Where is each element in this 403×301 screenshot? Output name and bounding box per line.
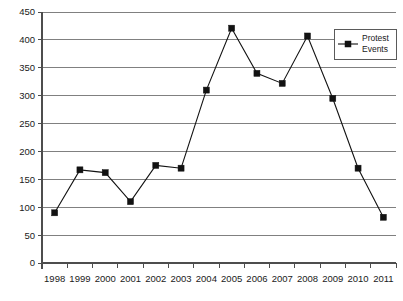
- x-axis-tick-label: 2008: [297, 273, 318, 284]
- chart-legend[interactable]: Protest Events: [334, 29, 396, 59]
- y-axis-tick-label: 400: [19, 34, 35, 45]
- x-axis-tick-label: 2011: [373, 273, 393, 284]
- y-tick-marks-group: [38, 12, 42, 263]
- data-point-marker: [355, 165, 361, 171]
- y-axis-tick-label: 150: [19, 174, 35, 185]
- data-point-marker: [77, 167, 83, 173]
- y-axis-tick-label: 50: [24, 230, 35, 241]
- x-axis-tick-label: 2002: [145, 273, 166, 284]
- x-tick-marks-group: [42, 263, 396, 268]
- x-axis-tick-label: 2001: [120, 273, 141, 284]
- x-axis-tick-label: 2005: [221, 273, 242, 284]
- legend-sample-marker: [345, 41, 351, 47]
- x-axis-tick-label: 2009: [322, 273, 343, 284]
- data-point-marker: [178, 165, 184, 171]
- y-axis-tick-label: 450: [19, 6, 35, 17]
- x-axis-tick-label: 1999: [69, 273, 90, 284]
- y-axis-tick-label: 200: [19, 146, 35, 157]
- y-axis-tick-label: 350: [19, 62, 35, 73]
- y-axis-tick-label: 300: [19, 90, 35, 101]
- y-axis-tick-label: 250: [19, 118, 35, 129]
- x-axis-labels-group: 1998199920002001200220032004200520062007…: [44, 273, 394, 284]
- legend-label-line2: Events: [362, 44, 388, 54]
- chart-canvas: 050100150200250300350400450 199819992000…: [0, 0, 403, 301]
- y-axis-labels-group: 050100150200250300350400450: [19, 6, 35, 268]
- x-axis-tick-label: 1998: [44, 273, 65, 284]
- data-point-marker: [330, 95, 336, 101]
- legend-label-line1: Protest: [362, 33, 390, 43]
- x-axis-tick-label: 2010: [348, 273, 369, 284]
- data-point-marker: [102, 170, 108, 176]
- data-point-marker: [153, 162, 159, 168]
- x-axis-tick-label: 2006: [246, 273, 267, 284]
- data-point-marker: [305, 33, 311, 39]
- data-point-marker: [279, 80, 285, 86]
- data-point-marker: [128, 199, 134, 205]
- x-axis-tick-label: 2004: [196, 273, 217, 284]
- x-axis-tick-label: 2003: [171, 273, 192, 284]
- data-point-marker: [203, 87, 209, 93]
- data-point-marker: [52, 210, 58, 216]
- data-point-marker: [254, 70, 260, 76]
- x-axis-tick-label: 2000: [95, 273, 116, 284]
- protest-events-line-chart: 050100150200250300350400450 199819992000…: [0, 0, 403, 301]
- data-point-marker: [229, 25, 235, 31]
- x-axis-tick-label: 2007: [272, 273, 293, 284]
- y-axis-tick-label: 0: [30, 257, 35, 268]
- y-axis-tick-label: 100: [19, 202, 35, 213]
- data-point-marker: [380, 214, 386, 220]
